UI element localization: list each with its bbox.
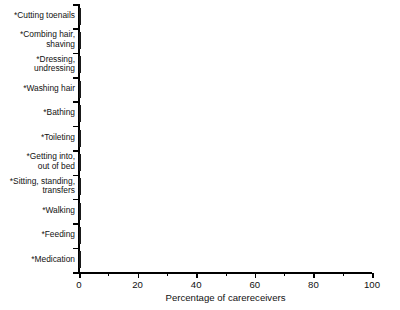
y-tick-6 (73, 126, 78, 128)
category-label-5: *Bathing (0, 108, 78, 118)
x-tick-label-20: 20 (118, 279, 158, 290)
category-label-9: *Walking (0, 206, 78, 216)
y-tick-5 (73, 101, 78, 103)
category-label-7: *Getting into, out of bed (0, 152, 78, 171)
bar-rect (79, 8, 81, 25)
x-tick-label-60: 60 (235, 279, 275, 290)
bar-11 (79, 251, 287, 268)
bar-rect (79, 130, 81, 147)
y-tick-4 (73, 77, 78, 79)
x-tick-60 (255, 273, 257, 278)
bar-rect (79, 227, 81, 244)
category-label-2: *Combing hair, shaving (0, 30, 78, 49)
x-tick-40 (196, 273, 198, 278)
x-tick-label-80: 80 (293, 279, 333, 290)
bar-rect (79, 203, 81, 220)
bar-1 (79, 8, 363, 25)
x-tick-100 (372, 273, 374, 278)
bar-8 (79, 178, 170, 195)
y-tick-10 (73, 223, 78, 225)
category-label-6: *Toileting (0, 133, 78, 143)
y-tick-1 (73, 4, 78, 6)
bar-9 (79, 203, 146, 220)
x-tick-10 (108, 273, 109, 276)
bar-rect (79, 105, 81, 122)
bar-7 (79, 154, 176, 171)
category-label-4: *Washing hair (0, 84, 78, 94)
x-tick-label-40: 40 (176, 279, 216, 290)
bar-6 (79, 130, 179, 147)
x-tick-50 (226, 273, 227, 276)
bar-5 (79, 105, 290, 122)
x-tick-30 (167, 273, 168, 276)
category-label-10: *Feeding (0, 230, 78, 240)
y-tick-9 (73, 199, 78, 201)
category-label-1: *Cutting toenails (0, 11, 78, 21)
x-axis-title: Percentage of carereceivers (79, 292, 372, 303)
y-tick-end (73, 272, 78, 274)
x-tick-0 (79, 273, 81, 278)
x-tick-20 (138, 273, 140, 278)
bar-2 (79, 32, 193, 49)
y-tick-2 (73, 28, 78, 30)
bar-rect (79, 154, 81, 171)
bar-rect (79, 251, 81, 268)
bar-10 (79, 227, 155, 244)
bar-rect (79, 32, 81, 49)
bar-rect (79, 56, 81, 73)
y-tick-11 (73, 248, 78, 250)
x-tick-label-100: 100 (352, 279, 392, 290)
category-label-8: *Sitting, standing, transfers (0, 177, 78, 196)
bar-rect (79, 178, 81, 195)
x-tick-90 (343, 273, 344, 276)
bar-4 (79, 81, 296, 98)
bar-chart: *Cutting toenails*Combing hair, shaving*… (0, 0, 400, 310)
category-label-3: *Dressing, undressing (0, 55, 78, 74)
bar-rect (79, 81, 81, 98)
x-tick-label-0: 0 (59, 279, 99, 290)
bar-3 (79, 56, 240, 73)
y-tick-3 (73, 53, 78, 55)
y-tick-8 (73, 175, 78, 177)
category-label-11: *Medication (0, 255, 78, 265)
y-tick-7 (73, 150, 78, 152)
x-tick-80 (313, 273, 315, 278)
x-tick-70 (284, 273, 285, 276)
